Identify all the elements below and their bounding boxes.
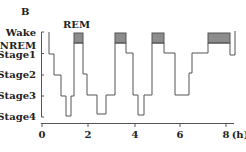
hypnogram-plot bbox=[0, 0, 246, 152]
y-axis bbox=[42, 32, 45, 117]
x-unit-label: (h) bbox=[232, 129, 246, 140]
x-tick-0: 0 bbox=[39, 129, 46, 140]
rem-blocks bbox=[74, 33, 230, 43]
x-tick-6: 6 bbox=[177, 129, 184, 140]
x-tick-4: 4 bbox=[132, 129, 139, 140]
x-axis bbox=[41, 124, 234, 128]
hypnogram-trace bbox=[49, 31, 235, 116]
x-tick-8: 8 bbox=[223, 129, 230, 140]
x-tick-2: 2 bbox=[85, 129, 92, 140]
